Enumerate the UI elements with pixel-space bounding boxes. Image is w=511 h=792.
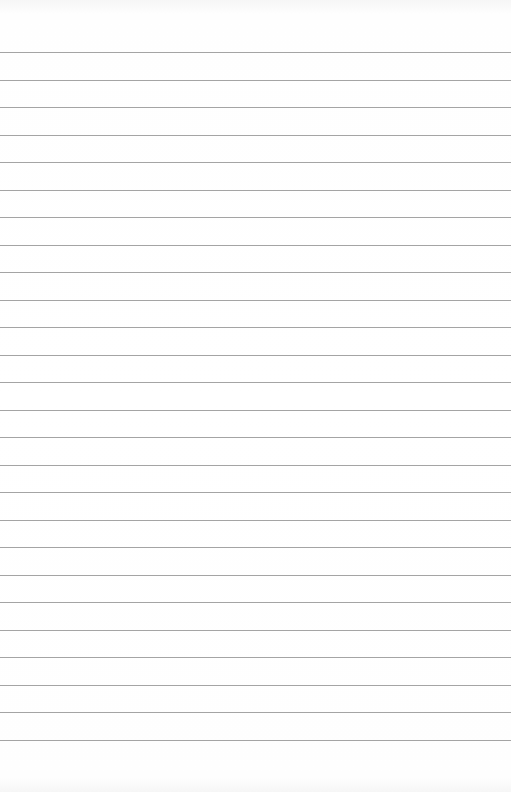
- ruled-line: [0, 217, 511, 218]
- ruled-line: [0, 52, 511, 53]
- ruled-line: [0, 135, 511, 136]
- ruled-line: [0, 272, 511, 273]
- ruled-line: [0, 162, 511, 163]
- ruled-line: [0, 107, 511, 108]
- ruled-line: [0, 465, 511, 466]
- ruled-line: [0, 492, 511, 493]
- ruled-line: [0, 685, 511, 686]
- ruled-line: [0, 190, 511, 191]
- ruled-line: [0, 300, 511, 301]
- ruled-line: [0, 602, 511, 603]
- ruled-line: [0, 382, 511, 383]
- ruled-line: [0, 630, 511, 631]
- ruled-line: [0, 740, 511, 741]
- ruled-line: [0, 410, 511, 411]
- ruled-line: [0, 355, 511, 356]
- ruled-line: [0, 327, 511, 328]
- ruled-line: [0, 80, 511, 81]
- ruled-line: [0, 245, 511, 246]
- ruled-line: [0, 520, 511, 521]
- ruled-line: [0, 437, 511, 438]
- ruled-line: [0, 657, 511, 658]
- ruled-line: [0, 547, 511, 548]
- lined-paper: [0, 0, 511, 792]
- ruled-line: [0, 575, 511, 576]
- ruled-line: [0, 712, 511, 713]
